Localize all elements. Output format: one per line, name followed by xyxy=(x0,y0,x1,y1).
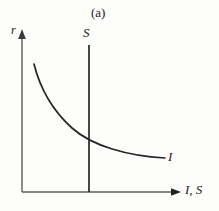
y-axis-arrowhead-icon xyxy=(18,29,26,39)
investment-curve-i xyxy=(34,64,165,158)
x-axis xyxy=(22,188,181,196)
y-axis-label: r xyxy=(11,24,16,36)
x-axis-arrowhead-icon xyxy=(171,188,181,196)
panel-label: (a) xyxy=(91,6,105,19)
figure-drawing-canvas xyxy=(0,0,219,211)
investment-curve-label: I xyxy=(168,150,172,163)
figure-panel-a: (a) r S I I, S xyxy=(0,0,219,211)
x-axis-label: I, S xyxy=(185,183,202,196)
saving-curve-label: S xyxy=(83,26,90,39)
y-axis xyxy=(18,29,26,192)
